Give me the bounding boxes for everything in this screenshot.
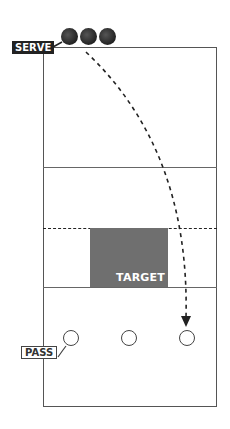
serve-tag-pointer — [53, 42, 62, 47]
pass-label: PASS — [21, 346, 57, 359]
pass-tag-pointer — [58, 346, 66, 357]
ball-icon — [99, 28, 116, 45]
passer-left-icon — [63, 330, 79, 346]
serve-label: SERVE — [12, 41, 54, 54]
arrow-head-icon — [181, 316, 191, 327]
passer-middle-icon — [121, 330, 137, 346]
ball-icon — [80, 28, 97, 45]
passer-right-icon — [179, 330, 195, 346]
ball-icon — [61, 28, 78, 45]
serve-trajectory-dashed — [86, 52, 186, 318]
serve-path-overlay — [0, 0, 230, 429]
